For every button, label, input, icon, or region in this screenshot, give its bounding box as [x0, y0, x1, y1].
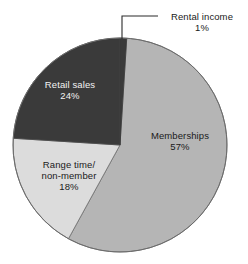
pie-chart-svg [0, 0, 248, 264]
pie-chart-figure: Memberships 57% Retail sales 24% Range t… [0, 0, 248, 264]
pie-slice-retail-sales[interactable] [13, 38, 120, 145]
rental-income-leader-line [122, 16, 158, 39]
